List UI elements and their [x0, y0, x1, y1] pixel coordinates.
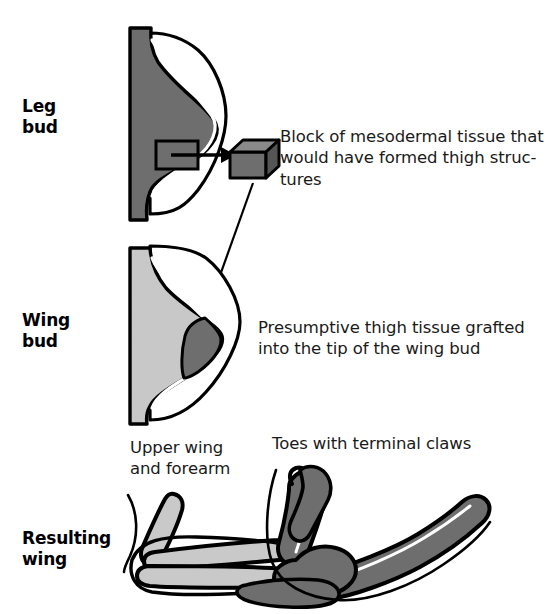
stage-label-wing-bud: Wing bud	[22, 310, 70, 353]
limb-bud-graft-figure: Leg bud Wing bud Resulting wing Block of…	[0, 0, 556, 614]
tissue-block-cube-icon	[230, 140, 279, 178]
wing-bud-diagram	[130, 246, 240, 424]
caption-tissue-block: Block of mesodermal tissue that would ha…	[280, 126, 544, 190]
caption-graft: Presumptive thigh tissue grafted into th…	[258, 317, 525, 360]
annotation-toes-with-terminal-claws: Toes with terminal claws	[272, 433, 471, 454]
stage-label-resulting-wing: Resulting wing	[22, 528, 111, 571]
annotation-upper-wing-and-forearm: Upper wing and forearm	[130, 437, 230, 479]
figure-artwork	[0, 0, 556, 614]
resulting-wing-diagram	[124, 467, 490, 608]
body-wall-contour	[124, 495, 136, 572]
stage-label-leg-bud: Leg bud	[22, 96, 58, 139]
leg-bud-diagram	[130, 28, 236, 220]
